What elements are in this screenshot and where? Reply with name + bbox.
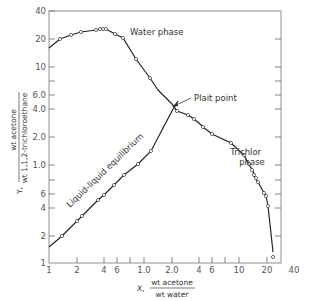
y-tick-label: 2.0 xyxy=(32,132,46,142)
y-tick-label: 4.0 xyxy=(32,104,46,114)
x-tick-label: 4 xyxy=(196,265,201,275)
x-tick-label: 6 xyxy=(114,265,119,275)
trichlor-phase-text: Trichlor xyxy=(229,147,261,157)
y-tick-labels: 40 20 10 6.0 4.0 2.0 1.0 6 4 2 1 xyxy=(32,6,46,268)
y-ticks-left xyxy=(49,11,55,236)
y-axis-prefix: Y, xyxy=(15,187,24,195)
y-tick-label: 4 xyxy=(41,203,46,213)
x-tick-label: 1 xyxy=(46,265,51,275)
data-markers xyxy=(58,27,274,258)
y-axis-denominator: wt 1,1,2-trichloroethane xyxy=(20,92,29,183)
trichlor-phase-label: Trichlor phase xyxy=(229,147,265,167)
x-tick-label: 6 xyxy=(209,265,214,275)
y-axis-title: Y, wt acetone wt 1,1,2-trichloroethane xyxy=(9,92,29,195)
y-axis-numerator: wt acetone xyxy=(9,109,18,151)
y-tick-label: 6 xyxy=(41,189,46,199)
x-tick-labels: 1 2 4 6 1.0 2.0 4 6 10 20 40 xyxy=(46,265,299,275)
x-tick-label: 4 xyxy=(101,265,106,275)
water-phase-curve xyxy=(49,29,158,90)
water-phase-label: Water phase xyxy=(130,27,183,37)
x-tick-label: 1.0 xyxy=(137,265,151,275)
y-tick-label: 1 xyxy=(41,258,46,268)
plait-point-label: Plait point xyxy=(194,93,237,103)
x-ticks xyxy=(77,257,267,263)
x-axis-denominator: wt water xyxy=(156,290,190,299)
y-tick-label: 20 xyxy=(35,34,46,44)
equilibrium-line xyxy=(49,101,178,247)
x-axis-prefix: X, xyxy=(137,284,145,293)
chart: 40 20 10 6.0 4.0 2.0 1.0 6 4 2 1 1 2 4 6… xyxy=(0,0,310,301)
y-ticks-right xyxy=(275,39,281,236)
y-tick-label: 10 xyxy=(35,62,46,72)
y-tick-label: 1.0 xyxy=(32,160,46,170)
trichlor-phase-text-line2: phase xyxy=(239,157,265,167)
x-tick-label: 20 xyxy=(262,265,273,275)
x-tick-label: 40 xyxy=(289,265,300,275)
y-tick-label: 6.0 xyxy=(32,90,46,100)
y-tick-label: 2 xyxy=(41,231,46,241)
x-tick-label: 2.0 xyxy=(165,265,179,275)
trichlor-phase-curve xyxy=(158,90,273,252)
x-axis-numerator: wt acetone xyxy=(151,278,193,287)
x-tick-label: 10 xyxy=(234,265,245,275)
x-axis-title: X, wt acetone wt water xyxy=(137,278,195,299)
x-tick-label: 2 xyxy=(74,265,79,275)
plot-frame xyxy=(49,11,281,263)
equilibrium-label: Liquid-liquid equilibrium xyxy=(64,131,145,210)
y-tick-label: 40 xyxy=(35,6,46,16)
